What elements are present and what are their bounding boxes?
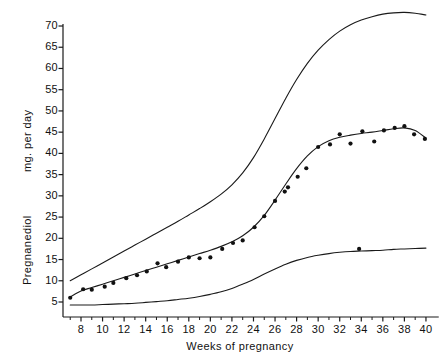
data-point — [187, 255, 191, 259]
data-point — [286, 185, 290, 189]
data-point — [111, 281, 115, 285]
data-point — [393, 126, 397, 130]
y-tick-label-55: 55 — [20, 84, 58, 95]
y-tick-label-30: 30 — [20, 190, 58, 201]
data-point — [145, 269, 149, 273]
data-point — [316, 145, 320, 149]
data-point — [328, 142, 332, 146]
series-upper-limit — [70, 12, 426, 280]
data-point — [241, 238, 245, 242]
data-point — [402, 124, 406, 128]
series-mean-fitted-curve — [70, 128, 426, 297]
y-axis-unit-title: mg. per day — [22, 110, 33, 172]
data-point — [423, 137, 427, 141]
y-axis-title: Pregnanediol — [22, 215, 33, 285]
data-point — [164, 265, 168, 269]
data-point — [304, 166, 308, 170]
data-point — [357, 247, 361, 251]
data-point — [372, 139, 376, 143]
data-point — [81, 287, 85, 291]
x-tick-label-40: 40 — [412, 324, 440, 335]
data-point — [262, 214, 266, 218]
data-point — [360, 129, 364, 133]
x-axis-title: Weeks of pregnancy — [160, 341, 320, 352]
data-point — [155, 261, 159, 265]
y-tick-label-5: 5 — [20, 296, 58, 307]
data-point — [338, 132, 342, 136]
data-point — [197, 256, 201, 260]
y-tick-label-70: 70 — [20, 20, 58, 31]
data-point — [252, 225, 256, 229]
chart-plot-area — [0, 0, 444, 364]
data-point — [135, 273, 139, 277]
series-observed-means — [68, 124, 427, 300]
y-tick-label-60: 60 — [20, 62, 58, 73]
curve-line — [70, 248, 426, 305]
data-point — [103, 285, 107, 289]
series-lower-limit — [70, 248, 426, 305]
data-point — [68, 296, 72, 300]
data-point — [348, 142, 352, 146]
data-point — [283, 190, 287, 194]
pregnanediol-chart-figure: 5101520253035404550556065708101214161820… — [0, 0, 444, 364]
data-point — [412, 132, 416, 136]
data-point — [90, 288, 94, 292]
data-point — [296, 175, 300, 179]
data-point — [124, 276, 128, 280]
curve-line — [70, 128, 426, 297]
data-point — [176, 260, 180, 264]
data-point — [273, 199, 277, 203]
data-point — [231, 241, 235, 245]
data-point — [208, 255, 212, 259]
data-point — [382, 128, 386, 132]
curve-line — [70, 12, 426, 280]
data-point — [220, 247, 224, 251]
y-tick-label-65: 65 — [20, 41, 58, 52]
